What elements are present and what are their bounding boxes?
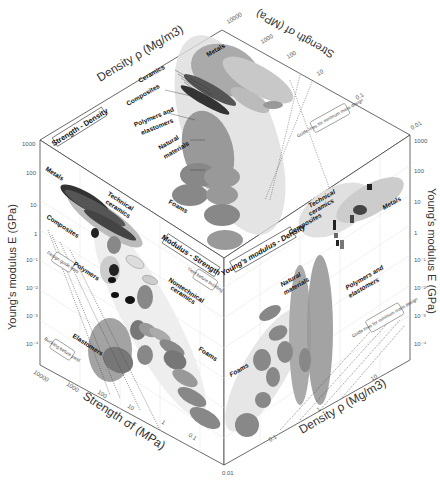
svg-text:10⁻²: 10⁻²	[414, 285, 426, 291]
left-modulus-axis-label: Young's modulus E (GPa)	[6, 204, 18, 330]
tick-top-1000: 1000	[260, 33, 275, 45]
tick-top-10: 10	[316, 68, 325, 77]
svg-text:100: 100	[26, 170, 37, 176]
svg-text:10000: 10000	[32, 369, 50, 383]
svg-text:10: 10	[414, 199, 421, 205]
svg-text:1000: 1000	[22, 141, 36, 147]
svg-text:0.01: 0.01	[222, 470, 234, 476]
svg-text:1: 1	[34, 231, 38, 237]
tick-right-corner: 0.01	[410, 119, 424, 130]
svg-text:10⁻⁴: 10⁻⁴	[414, 341, 427, 347]
svg-text:10: 10	[30, 202, 37, 208]
tick-top-0.1: 0.1	[355, 91, 366, 101]
right-modulus-ticks: 1000 100 10 1 10⁻¹ 10⁻² 10⁻³ 10⁻⁴	[414, 138, 428, 347]
svg-text:10⁻²: 10⁻²	[26, 285, 38, 291]
svg-text:100: 100	[414, 168, 425, 174]
materials-cube-chart: Guide lines for minimum mass design Stre…	[0, 0, 440, 483]
svg-text:10⁻¹: 10⁻¹	[414, 257, 426, 263]
left-modulus-ticks: 1000 100 10 1 10⁻¹ 10⁻² 10⁻³ 10⁻⁴	[22, 141, 39, 347]
tick-top-corner: 10000	[226, 11, 244, 25]
svg-text:10⁻⁴: 10⁻⁴	[26, 341, 39, 347]
tick-top-100: 100	[286, 49, 298, 60]
svg-text:10⁻³: 10⁻³	[26, 313, 38, 319]
svg-text:10⁻¹: 10⁻¹	[26, 257, 38, 263]
right-modulus-axis-label: Young's modulus E (GPa)	[426, 188, 438, 314]
svg-text:1: 1	[414, 230, 418, 236]
svg-text:1000: 1000	[414, 138, 428, 144]
svg-text:10⁻³: 10⁻³	[414, 313, 426, 319]
